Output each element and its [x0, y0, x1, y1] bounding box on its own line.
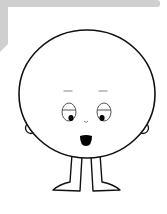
- character-illustration: Round-headed cartoon character: [0, 0, 167, 214]
- right-leg: [91, 154, 120, 191]
- left-eye: [62, 103, 76, 121]
- left-leg: [53, 154, 82, 191]
- right-eye: [97, 103, 111, 121]
